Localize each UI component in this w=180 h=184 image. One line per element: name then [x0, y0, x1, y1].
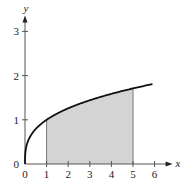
x-tick-label: 5: [130, 168, 136, 180]
x-tick-label: 1: [44, 168, 50, 180]
x-axis-arrow-icon: [166, 162, 173, 167]
y-axis-label: y: [23, 2, 29, 14]
y-tick-label: 3: [14, 25, 20, 37]
y-tick-label: 2: [14, 70, 20, 82]
x-axis-label: x: [175, 157, 180, 169]
y-tick-label: 1: [14, 114, 20, 126]
x-tick-label: 2: [65, 168, 71, 180]
y-tick-label: 0: [14, 158, 20, 170]
x-tick-label: 6: [152, 168, 158, 180]
chart: 01234560123xy: [0, 0, 180, 184]
x-tick-label: 4: [109, 168, 115, 180]
x-tick-label: 3: [87, 168, 93, 180]
x-tick-label: 0: [22, 168, 28, 180]
y-axis-arrow-icon: [23, 15, 28, 22]
